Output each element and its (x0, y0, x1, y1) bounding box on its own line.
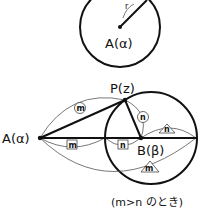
figure-circle-a: r A(α) (80, 0, 160, 67)
mark-circle-n-label: n (140, 113, 146, 122)
point-b-label: B(β) (137, 143, 164, 158)
point-p (123, 98, 127, 102)
center-label-a: A(α) (105, 36, 133, 51)
mark-square-n-label: n (120, 141, 126, 150)
caption: (m>n のとき) (111, 196, 183, 209)
diagram-canvas: r A(α) P(z) A(α) B(β) m n n (0, 0, 204, 218)
circle-radius-r (80, 0, 160, 67)
radius-label: r (125, 2, 129, 11)
point-a-label: A(α) (2, 131, 30, 146)
point-p-label: P(z) (110, 81, 135, 96)
mark-circle-m-label: m (77, 104, 85, 113)
point-a (38, 136, 42, 140)
mark-square-m-label: m (69, 141, 77, 150)
mark-triangle-n-label: n (164, 125, 170, 134)
mark-triangle-m-label: m (145, 164, 153, 173)
point-b (139, 136, 143, 140)
figure-apollonius: P(z) A(α) B(β) m n n m n m (m>n のとき) (2, 81, 197, 209)
